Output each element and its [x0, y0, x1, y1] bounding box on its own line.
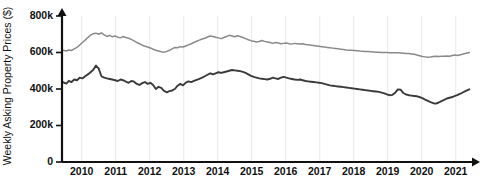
x-tick-label: 2020: [410, 165, 434, 177]
x-tick-label: 2016: [274, 165, 298, 177]
x-tick-label: 2010: [70, 165, 94, 177]
y-tick-label: 200k: [30, 118, 54, 130]
x-tick-label: 2015: [240, 165, 264, 177]
series-line-lower-series: [63, 66, 469, 104]
y-axis-title: Weekly Asking Property Prices ($): [1, 7, 13, 166]
x-tick-label: 2014: [206, 165, 230, 177]
chart-container: 0200k400k600k800k 2010201120122013201420…: [0, 0, 481, 186]
y-tick-label: 600k: [30, 45, 54, 57]
x-tick-label: 2018: [342, 165, 366, 177]
x-tick-label: 2012: [138, 165, 162, 177]
y-tick-label: 400k: [30, 82, 54, 94]
x-axis-ticks: 2010201120122013201420152016201720182019…: [70, 165, 468, 177]
data-series-group: [63, 33, 469, 104]
series-line-upper-series: [63, 33, 469, 57]
x-tick-label: 2017: [308, 165, 332, 177]
y-axis-arrow-icon: [58, 8, 67, 16]
y-tick-label: 0: [47, 155, 53, 167]
y-tick-label: 800k: [30, 9, 54, 21]
x-tick-label: 2021: [444, 165, 468, 177]
y-axis-ticks: 0200k400k600k800k: [30, 9, 62, 167]
x-tick-label: 2011: [104, 165, 127, 177]
x-axis-arrow-icon: [472, 158, 480, 167]
x-tick-label: 2013: [172, 165, 196, 177]
line-chart: 0200k400k600k800k 2010201120122013201420…: [0, 0, 481, 186]
x-tick-label: 2019: [376, 165, 400, 177]
